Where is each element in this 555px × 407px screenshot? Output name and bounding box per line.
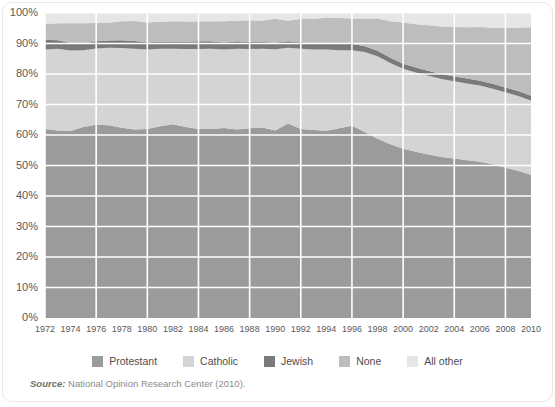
source-note: Source: National Opinion Research Center… xyxy=(30,378,245,389)
x-tick-label: 2000 xyxy=(389,324,417,334)
x-tick-label: 1980 xyxy=(133,324,161,334)
legend-swatch-icon xyxy=(183,356,194,367)
y-tick-label: 90% xyxy=(0,38,38,49)
x-tick-label: 1984 xyxy=(184,324,212,334)
legend-swatch-icon xyxy=(92,356,103,367)
plot-area: 0%10%20%30%40%50%60%70%80%90%100% 197219… xyxy=(0,0,555,345)
x-tick-label: 1986 xyxy=(210,324,238,334)
y-tick-label: 30% xyxy=(0,221,38,232)
x-tick-label: 1982 xyxy=(159,324,187,334)
x-tick-label: 1992 xyxy=(287,324,315,334)
y-tick-label: 20% xyxy=(0,251,38,262)
x-tick-label: 1996 xyxy=(338,324,366,334)
source-text: National Opinion Research Center (2010). xyxy=(65,378,245,389)
legend-label: None xyxy=(356,355,381,367)
y-tick-label: 100% xyxy=(0,7,38,18)
x-tick-label: 1990 xyxy=(261,324,289,334)
y-tick-label: 80% xyxy=(0,68,38,79)
x-tick-label: 1974 xyxy=(57,324,85,334)
y-tick-label: 10% xyxy=(0,282,38,293)
x-tick-label: 1978 xyxy=(108,324,136,334)
legend-label: Protestant xyxy=(109,355,157,367)
legend-item-all-other[interactable]: All other xyxy=(407,355,463,367)
legend-item-protestant[interactable]: Protestant xyxy=(92,355,157,367)
legend-label: Jewish xyxy=(281,355,313,367)
figure-container: 0%10%20%30%40%50%60%70%80%90%100% 197219… xyxy=(0,0,555,407)
legend-swatch-icon xyxy=(264,356,275,367)
x-tick-label: 1988 xyxy=(236,324,264,334)
x-tick-label: 2010 xyxy=(517,324,545,334)
legend-label: Catholic xyxy=(200,355,238,367)
x-tick-label: 2002 xyxy=(415,324,443,334)
stacked-area-chart xyxy=(0,0,555,345)
legend-item-catholic[interactable]: Catholic xyxy=(183,355,238,367)
y-tick-label: 50% xyxy=(0,160,38,171)
legend-swatch-icon xyxy=(407,356,418,367)
source-label: Source: xyxy=(30,378,65,389)
x-tick-label: 2008 xyxy=(491,324,519,334)
legend-swatch-icon xyxy=(339,356,350,367)
x-tick-label: 1994 xyxy=(312,324,340,334)
y-tick-label: 0% xyxy=(0,312,38,323)
x-tick-label: 1972 xyxy=(31,324,59,334)
legend-label: All other xyxy=(424,355,463,367)
y-tick-label: 60% xyxy=(0,129,38,140)
y-tick-label: 70% xyxy=(0,99,38,110)
y-tick-label: 40% xyxy=(0,190,38,201)
x-tick-label: 1998 xyxy=(364,324,392,334)
x-tick-label: 2006 xyxy=(466,324,494,334)
x-tick-label: 1976 xyxy=(82,324,110,334)
chart-legend: ProtestantCatholicJewishNoneAll other xyxy=(0,350,555,372)
x-tick-label: 2004 xyxy=(440,324,468,334)
legend-item-jewish[interactable]: Jewish xyxy=(264,355,313,367)
legend-item-none[interactable]: None xyxy=(339,355,381,367)
